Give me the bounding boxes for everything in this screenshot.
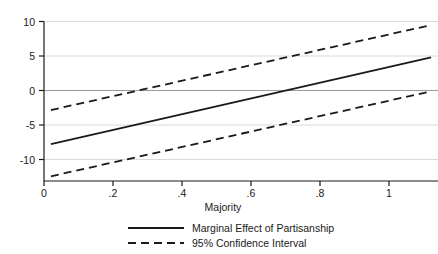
series-line-ci-upper (51, 25, 431, 110)
x-tick-label: 1 (386, 187, 392, 199)
x-axis-ticks (44, 181, 389, 186)
x-tick-label: 0 (41, 187, 47, 199)
y-tick-label: 0 (29, 85, 35, 97)
legend-label-confidence-interval: 95% Confidence Interval (192, 237, 306, 249)
x-tick-label: .4 (178, 187, 187, 199)
x-tick-label: .6 (247, 187, 256, 199)
y-tick-label: 5 (29, 50, 35, 62)
x-axis-tick-labels: 0 .2 .4 .6 .8 1 (41, 187, 392, 199)
y-tick-label: -10 (20, 154, 35, 166)
x-axis-title: Majority (205, 201, 243, 213)
legend-label-marginal-effect: Marginal Effect of Partisanship (192, 222, 334, 234)
x-tick-label: .8 (316, 187, 325, 199)
y-tick-label: 10 (23, 16, 35, 28)
chart-figure: 10 5 0 -5 -10 0 .2 .4 .6 .8 1 Majority (0, 0, 438, 254)
y-axis-ticks (39, 22, 44, 160)
series-line-marginal-effect (51, 57, 431, 144)
series-line-ci-lower (51, 91, 431, 176)
y-tick-label: -5 (26, 119, 35, 131)
x-tick-label: .2 (109, 187, 118, 199)
data-series-layer (51, 25, 431, 176)
marginal-effect-plot: 10 5 0 -5 -10 0 .2 .4 .6 .8 1 Majority (0, 0, 438, 254)
y-axis-tick-labels: 10 5 0 -5 -10 (20, 16, 35, 166)
chart-legend: Marginal Effect of Partisanship 95% Conf… (128, 222, 334, 249)
